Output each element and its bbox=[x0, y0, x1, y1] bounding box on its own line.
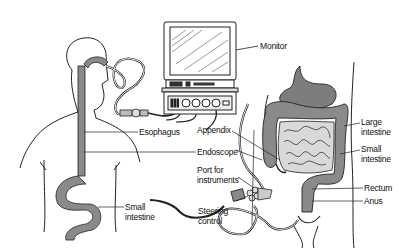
monitor-device bbox=[162, 22, 238, 114]
label-appendix: Appendix bbox=[197, 126, 231, 136]
small-intestine-right bbox=[278, 121, 334, 173]
stomach-small-intestine-left bbox=[56, 176, 101, 240]
label-small-intestine-right: Small intestine bbox=[361, 145, 391, 164]
label-rectum: Rectum bbox=[364, 184, 392, 194]
label-anus: Anus bbox=[364, 197, 383, 207]
label-port-for-instruments: Port for instruments bbox=[197, 166, 239, 185]
label-endoscope: Endoscope bbox=[197, 148, 238, 158]
label-esophagus: Esophagus bbox=[139, 128, 180, 138]
endoscope-tube-upper bbox=[106, 59, 144, 114]
label-small-intestine-left: Small intestine bbox=[125, 203, 155, 222]
monitor-leader-line bbox=[236, 46, 258, 50]
label-steering-control: Steering control bbox=[198, 207, 228, 226]
label-monitor: Monitor bbox=[260, 42, 287, 52]
esophagus-organ bbox=[78, 57, 108, 176]
lower-endoscope-handle bbox=[231, 187, 272, 201]
label-large-intestine: Large intestine bbox=[361, 118, 391, 137]
